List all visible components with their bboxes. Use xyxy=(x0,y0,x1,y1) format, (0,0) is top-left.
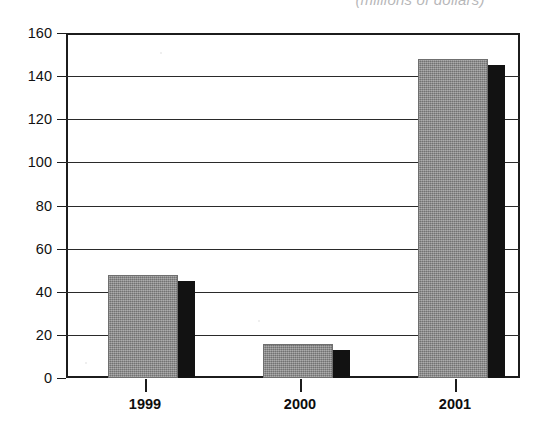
x-axis-label-1999: 1999 xyxy=(85,396,205,412)
y-axis-label: 160 xyxy=(0,25,52,41)
y-axis-tick xyxy=(57,335,66,336)
x-axis-tick xyxy=(455,379,457,392)
bar-2001 xyxy=(418,59,505,378)
bar-shadow xyxy=(178,281,195,379)
x-axis-label-2001: 2001 xyxy=(395,396,515,412)
y-axis-tick xyxy=(57,206,66,207)
x-axis-label-2000: 2000 xyxy=(240,396,360,412)
y-axis-tick xyxy=(57,119,66,120)
bar-shadow xyxy=(488,65,505,378)
y-axis-tick xyxy=(57,76,66,77)
y-axis-label: 140 xyxy=(0,68,52,84)
y-axis-tick xyxy=(57,249,66,250)
bar-shadow xyxy=(333,350,350,379)
bar-chart: (millions of dollars) 020406080100120140… xyxy=(0,0,549,441)
bar-face xyxy=(263,344,333,379)
y-axis-tick xyxy=(57,162,66,163)
x-axis-tick xyxy=(145,379,147,392)
y-axis-label: 100 xyxy=(0,154,52,170)
y-axis-label: 60 xyxy=(0,241,52,257)
bar-1999 xyxy=(108,275,195,379)
y-axis-label: 0 xyxy=(0,370,52,386)
bar-face xyxy=(108,275,178,379)
y-axis-label: 20 xyxy=(0,327,52,343)
bar-face xyxy=(418,59,488,378)
y-axis-label: 40 xyxy=(0,284,52,300)
y-axis-tick xyxy=(57,292,66,293)
chart-title: (millions of dollars) xyxy=(300,0,540,8)
bar-2000 xyxy=(263,344,350,379)
y-axis-tick xyxy=(57,378,66,379)
y-axis-label: 80 xyxy=(0,198,52,214)
y-axis-tick xyxy=(57,33,66,34)
y-axis-label: 120 xyxy=(0,111,52,127)
x-axis-tick xyxy=(300,379,302,392)
